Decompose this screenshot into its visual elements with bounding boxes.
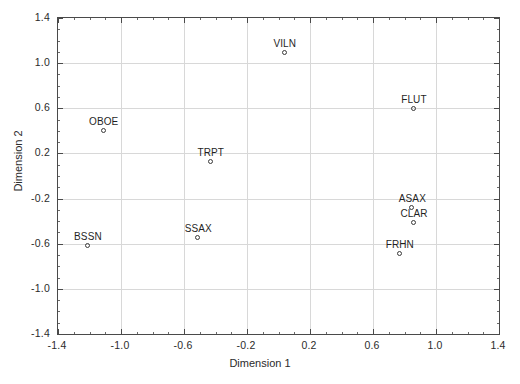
- x-tick-label: -0.2: [237, 339, 256, 351]
- x-tick-minor: [216, 18, 217, 20]
- x-tick-minor: [231, 18, 232, 20]
- plot-area: VILNFLUTOBOETRPTASAXCLARSSAXBSSNFRHN: [57, 17, 500, 335]
- y-tick-major: [494, 18, 499, 19]
- gridline-vertical: [436, 18, 437, 334]
- x-tick-minor: [153, 332, 154, 334]
- y-tick-major: [58, 289, 63, 290]
- data-point-marker: [85, 243, 90, 248]
- x-tick-minor: [420, 18, 421, 20]
- data-point-label: SSAX: [185, 223, 212, 234]
- x-tick-minor: [216, 332, 217, 334]
- y-tick-label: -1.0: [8, 282, 50, 294]
- x-tick-minor: [168, 332, 169, 334]
- data-point-marker: [195, 235, 200, 240]
- x-tick-minor: [357, 332, 358, 334]
- x-tick-minor: [279, 332, 280, 334]
- y-tick-minor: [497, 165, 499, 166]
- y-tick-major: [58, 334, 63, 335]
- x-tick-minor: [105, 18, 106, 20]
- x-tick-minor: [294, 332, 295, 334]
- y-tick-major: [58, 244, 63, 245]
- x-tick-major: [310, 18, 311, 23]
- y-tick-minor: [497, 41, 499, 42]
- x-tick-minor: [90, 18, 91, 20]
- y-tick-minor: [58, 232, 60, 233]
- x-axis-title: Dimension 1: [0, 357, 520, 369]
- x-tick-minor: [200, 18, 201, 20]
- y-tick-minor: [497, 278, 499, 279]
- x-tick-major: [373, 329, 374, 334]
- data-point-label: CLAR: [400, 208, 427, 219]
- x-tick-label: -0.6: [174, 339, 193, 351]
- x-tick-minor: [452, 18, 453, 20]
- y-tick-minor: [497, 29, 499, 30]
- x-tick-minor: [468, 332, 469, 334]
- data-point-marker: [101, 128, 106, 133]
- gridline-vertical: [373, 18, 374, 334]
- x-tick-minor: [74, 18, 75, 20]
- y-tick-label: -1.4: [8, 327, 50, 339]
- x-tick-major: [247, 18, 248, 23]
- x-tick-minor: [420, 332, 421, 334]
- y-tick-major: [58, 153, 63, 154]
- x-tick-minor: [263, 18, 264, 20]
- y-tick-major: [494, 199, 499, 200]
- x-tick-minor: [326, 18, 327, 20]
- x-tick-major: [436, 329, 437, 334]
- gridline-vertical: [121, 18, 122, 334]
- x-tick-label: -1.0: [111, 339, 130, 351]
- x-tick-minor: [263, 332, 264, 334]
- y-tick-minor: [58, 120, 60, 121]
- gridline-horizontal: [58, 63, 499, 64]
- y-tick-major: [58, 108, 63, 109]
- gridline-horizontal: [58, 244, 499, 245]
- x-tick-minor: [137, 332, 138, 334]
- x-tick-minor: [90, 332, 91, 334]
- y-tick-minor: [497, 176, 499, 177]
- y-tick-major: [58, 18, 63, 19]
- y-tick-major: [58, 199, 63, 200]
- x-tick-minor: [357, 18, 358, 20]
- data-point-label: FRHN: [386, 239, 414, 250]
- x-tick-label: 0.6: [364, 339, 379, 351]
- x-tick-minor: [483, 332, 484, 334]
- x-tick-minor: [405, 18, 406, 20]
- data-point-marker: [397, 251, 402, 256]
- y-tick-minor: [497, 187, 499, 188]
- x-tick-minor: [294, 18, 295, 20]
- x-tick-major: [184, 329, 185, 334]
- x-tick-minor: [153, 18, 154, 20]
- x-tick-minor: [342, 18, 343, 20]
- x-tick-minor: [405, 332, 406, 334]
- y-tick-minor: [497, 142, 499, 143]
- y-tick-minor: [497, 86, 499, 87]
- y-tick-minor: [58, 131, 60, 132]
- y-tick-minor: [58, 210, 60, 211]
- x-tick-minor: [389, 332, 390, 334]
- x-tick-major: [499, 329, 500, 334]
- gridline-horizontal: [58, 199, 499, 200]
- x-tick-major: [499, 18, 500, 23]
- x-tick-minor: [74, 332, 75, 334]
- gridline-horizontal: [58, 153, 499, 154]
- x-tick-major: [121, 329, 122, 334]
- gridline-vertical: [247, 18, 248, 334]
- data-point-marker: [208, 159, 213, 164]
- x-tick-minor: [342, 332, 343, 334]
- x-tick-label: 1.0: [427, 339, 442, 351]
- y-tick-label: 1.4: [8, 11, 50, 23]
- gridline-vertical: [184, 18, 185, 334]
- data-point-label: TRPT: [198, 147, 225, 158]
- data-point-label: VILN: [273, 38, 296, 49]
- y-tick-minor: [497, 255, 499, 256]
- y-tick-minor: [58, 278, 60, 279]
- x-tick-minor: [137, 18, 138, 20]
- x-tick-minor: [389, 18, 390, 20]
- x-tick-minor: [452, 332, 453, 334]
- x-tick-minor: [200, 332, 201, 334]
- y-tick-minor: [58, 142, 60, 143]
- x-tick-minor: [105, 332, 106, 334]
- y-tick-minor: [497, 266, 499, 267]
- x-tick-major: [373, 18, 374, 23]
- y-tick-minor: [497, 210, 499, 211]
